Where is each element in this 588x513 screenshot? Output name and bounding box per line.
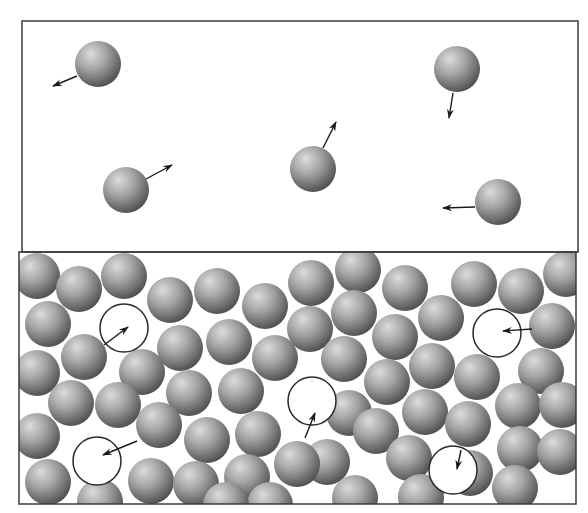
liquid-particle	[128, 458, 174, 504]
liquid-particle	[288, 260, 334, 306]
liquid-particle	[157, 325, 203, 371]
liquid-particle	[445, 401, 491, 447]
liquid-particle	[364, 359, 410, 405]
liquid-particle	[543, 251, 588, 297]
liquid-particle	[495, 383, 541, 429]
velocity-arrow-icon	[146, 165, 172, 179]
liquid-particle	[101, 253, 147, 299]
velocity-arrow-icon	[449, 93, 453, 118]
gas-particle	[475, 179, 521, 225]
liquid-particle	[418, 295, 464, 341]
gas-particles	[53, 41, 521, 225]
vacancy-circle	[429, 446, 477, 494]
liquid-particle	[95, 382, 141, 428]
liquid-particle	[409, 343, 455, 389]
gas-particle	[434, 46, 480, 92]
vacancy-circle	[288, 377, 336, 425]
velocity-arrow-icon	[443, 207, 475, 208]
liquid-particle	[25, 459, 71, 505]
liquid-particle	[331, 290, 377, 336]
liquid-particle	[48, 380, 94, 426]
gas-panel	[22, 21, 578, 252]
liquid-particle	[454, 354, 500, 400]
velocity-arrow-icon	[53, 76, 77, 86]
liquid-particle	[451, 261, 497, 307]
liquid-particle	[136, 402, 182, 448]
liquid-particle	[498, 268, 544, 314]
liquid-panel	[14, 247, 588, 513]
vacancy-circle	[473, 309, 521, 357]
liquid-particle	[252, 335, 298, 381]
liquid-particle	[497, 426, 543, 472]
velocity-arrow-icon	[323, 122, 336, 148]
vacancy-circle	[73, 437, 121, 485]
liquid-particle	[529, 303, 575, 349]
liquid-particle	[206, 319, 252, 365]
liquid-particle	[386, 435, 432, 481]
liquid-particle	[147, 277, 193, 323]
liquid-particle	[235, 411, 281, 457]
liquid-particle	[194, 268, 240, 314]
vacancy-circle	[100, 304, 148, 352]
liquid-particle	[14, 253, 60, 299]
gas-vs-liquid-diagram	[0, 0, 588, 513]
liquid-particle	[25, 301, 71, 347]
gas-particle	[290, 146, 336, 192]
gas-particle	[103, 167, 149, 213]
liquid-particle	[14, 413, 60, 459]
liquid-particle	[402, 389, 448, 435]
liquid-particle	[335, 247, 381, 293]
liquid-particle	[56, 266, 102, 312]
liquid-particle	[61, 334, 107, 380]
liquid-particle	[184, 417, 230, 463]
liquid-particle	[242, 283, 288, 329]
diagram-canvas	[0, 0, 588, 513]
liquid-particle	[218, 368, 264, 414]
liquid-particle	[372, 314, 418, 360]
liquid-particle	[382, 265, 428, 311]
liquid-particle	[539, 382, 585, 428]
liquid-particle	[274, 441, 320, 487]
liquid-particle	[321, 336, 367, 382]
gas-particle	[75, 41, 121, 87]
